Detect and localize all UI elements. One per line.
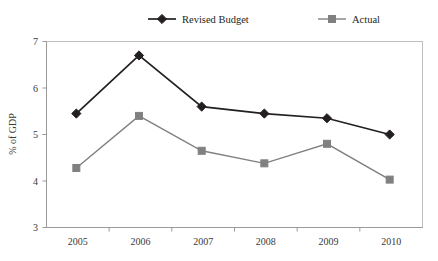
x-tick-label: 2006 [131,236,151,247]
chart-container: Revised BudgetActual 34567 2005200620072… [0,0,438,261]
x-tick-label: 2008 [256,236,276,247]
y-tick-label: 7 [33,36,38,47]
x-tick-label: 2005 [68,236,88,247]
y-axis-title: % of GDP [7,113,18,155]
data-point-marker [386,176,393,183]
y-tick-label: 3 [33,222,38,233]
legend-label: Revised Budget [182,14,249,25]
y-tick-label: 4 [33,176,38,187]
x-tick-label: 2009 [319,236,339,247]
data-point-marker [324,140,331,147]
data-point-marker [198,147,205,154]
data-point-marker [261,160,268,167]
data-point-marker [73,164,80,171]
x-tick-label: 2010 [381,236,401,247]
legend-label: Actual [352,14,380,25]
y-tick-label: 5 [33,129,38,140]
data-point-marker [136,112,143,119]
y-tick-label: 6 [33,83,38,94]
x-tick-label: 2007 [193,236,213,247]
legend-square-icon [329,16,336,23]
line-chart: Revised BudgetActual 34567 2005200620072… [0,0,438,261]
